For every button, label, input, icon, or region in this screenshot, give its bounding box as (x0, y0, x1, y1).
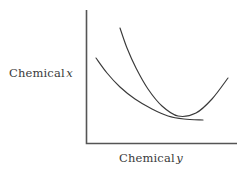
plot-area (0, 0, 249, 175)
curves-group (96, 28, 228, 120)
chemical-isoquant-figure: Chemicalx Chemicaly (0, 0, 249, 175)
curve-isoquant-upper (120, 28, 228, 116)
axes-group (87, 10, 238, 144)
axis-lines (87, 10, 238, 144)
chemical-y-label: Chemicaly (119, 151, 183, 165)
chemical-x-label: Chemicalx (9, 66, 73, 80)
chemical-x-label-variable: x (65, 66, 73, 80)
curve-isoquant-lower (96, 58, 203, 120)
chemical-y-label-text: Chemical (119, 151, 175, 165)
chemical-x-label-text: Chemical (9, 66, 65, 80)
chemical-y-label-variable: y (175, 151, 183, 165)
